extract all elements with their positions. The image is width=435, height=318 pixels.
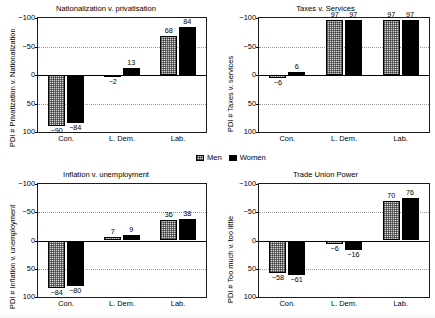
y-tick-label: 100 xyxy=(23,293,35,300)
bar-men[interactable] xyxy=(269,241,286,274)
y-tick-label: 0 xyxy=(31,71,35,78)
y-tick-mark xyxy=(256,297,259,298)
bar-value-label: −6 xyxy=(274,79,282,87)
y-tick-mark xyxy=(35,75,38,76)
bar-value-label: −90 xyxy=(51,127,63,135)
panel-title: Trade Union Power xyxy=(218,170,433,179)
bar-women[interactable] xyxy=(288,72,305,75)
panel-taxes-v-services: Taxes v. Services PDI # Taxes v. service… xyxy=(218,4,433,154)
bar-value-label: 97 xyxy=(406,11,414,19)
y-tick-label: 0 xyxy=(252,71,256,78)
y-tick-label: 50 xyxy=(27,265,35,272)
gridline xyxy=(38,212,206,213)
bar-value-label: 68 xyxy=(165,27,173,35)
bar-value-label: 84 xyxy=(183,18,191,26)
y-tick-mark xyxy=(35,104,38,105)
bar-women[interactable] xyxy=(67,241,84,286)
y-axis-label: PDI # Inflation v. unemployment xyxy=(9,205,17,309)
y-tick-label: −100 xyxy=(239,180,256,187)
legend-swatch-men-icon xyxy=(196,155,204,161)
bar-women[interactable] xyxy=(345,20,362,75)
bar-value-label: 9 xyxy=(129,226,133,234)
x-tick-label: Lab. xyxy=(171,135,185,143)
bar-women[interactable] xyxy=(288,241,305,275)
bar-value-label: 36 xyxy=(165,211,173,219)
bar-women[interactable] xyxy=(67,75,84,123)
y-tick-mark xyxy=(35,132,38,133)
panel-title: Taxes v. Services xyxy=(218,4,433,13)
bar-men[interactable] xyxy=(383,20,400,75)
panel-nationalization-v-privatisation: Nationalization v. privatisation PDI # P… xyxy=(0,4,212,154)
bar-value-label: 7 xyxy=(111,228,115,236)
bar-women[interactable] xyxy=(345,241,362,250)
y-tick-label: 0 xyxy=(252,237,256,244)
y-tick-mark xyxy=(256,132,259,133)
bar-men[interactable] xyxy=(160,36,177,75)
bar-value-label: −61 xyxy=(291,276,303,284)
bar-value-label: 97 xyxy=(331,11,339,19)
y-tick-label: −50 xyxy=(22,209,35,216)
bar-women[interactable] xyxy=(402,20,419,75)
legend-swatch-women-icon xyxy=(229,155,237,161)
x-tick-label: Lab. xyxy=(393,300,407,308)
y-tick-mark xyxy=(35,184,38,185)
y-tick-label: 0 xyxy=(31,237,35,244)
y-tick-mark xyxy=(35,18,38,19)
y-tick-mark xyxy=(256,212,259,213)
y-axis-label: PDI # Taxes v. services xyxy=(227,56,235,132)
y-tick-mark xyxy=(35,269,38,270)
bar-men[interactable] xyxy=(104,237,121,241)
bar-women[interactable] xyxy=(123,68,140,75)
legend-item-women[interactable]: Women xyxy=(229,153,266,162)
y-tick-label: −100 xyxy=(18,180,35,187)
y-axis-label: PDI # Too much v. too little xyxy=(227,216,235,303)
y-tick-mark xyxy=(256,18,259,19)
panel-inflation-v-unemployment: Inflation v. unemployment PDI # Inflatio… xyxy=(0,170,212,318)
y-tick-label: −50 xyxy=(22,43,35,50)
plot-area: 100500−50−100Con.−58−61L. Dem.−6−16Lab.7… xyxy=(258,183,430,298)
bar-women[interactable] xyxy=(179,219,196,240)
bar-value-label: −16 xyxy=(347,251,359,259)
y-tick-label: −100 xyxy=(239,14,256,21)
bar-value-label: −84 xyxy=(69,124,81,132)
bar-value-label: 6 xyxy=(295,63,299,71)
panel-trade-union-power: Trade Union Power PDI # Too much v. too … xyxy=(218,170,433,318)
y-tick-label: −100 xyxy=(18,14,35,21)
y-tick-mark xyxy=(35,212,38,213)
bar-men[interactable] xyxy=(48,241,65,288)
y-tick-label: 50 xyxy=(248,100,256,107)
x-tick-label: Con. xyxy=(58,300,74,308)
bar-value-label: −84 xyxy=(51,289,63,297)
y-tick-mark xyxy=(256,47,259,48)
bar-value-label: 97 xyxy=(349,11,357,19)
bar-value-label: −6 xyxy=(331,245,339,253)
x-tick-label: Con. xyxy=(280,135,296,143)
bar-women[interactable] xyxy=(179,27,196,75)
bar-men[interactable] xyxy=(48,75,65,126)
bar-men[interactable] xyxy=(160,220,177,240)
x-tick-label: L. Dem. xyxy=(109,135,135,143)
bar-men[interactable] xyxy=(326,20,343,75)
x-tick-label: L. Dem. xyxy=(331,135,357,143)
bar-women[interactable] xyxy=(123,235,140,240)
figure-multipanel-bar-charts: Nationalization v. privatisation PDI # P… xyxy=(0,0,435,318)
y-tick-mark xyxy=(256,269,259,270)
gridline xyxy=(259,104,429,105)
y-tick-label: 100 xyxy=(244,293,256,300)
y-tick-label: 100 xyxy=(244,128,256,135)
bar-women[interactable] xyxy=(402,198,419,241)
legend: Men Women xyxy=(196,153,266,162)
plot-area: 100500−50−100Con.−84−80L. Dem.79Lab.3638 xyxy=(37,183,207,298)
bar-value-label: 13 xyxy=(127,59,135,67)
bar-value-label: 38 xyxy=(183,210,191,218)
bar-value-label: 70 xyxy=(387,192,395,200)
y-tick-mark xyxy=(35,47,38,48)
bar-men[interactable] xyxy=(383,201,400,241)
x-tick-label: L. Dem. xyxy=(109,300,135,308)
legend-item-men[interactable]: Men xyxy=(196,153,222,162)
x-tick-label: Lab. xyxy=(171,300,185,308)
bar-value-label: 97 xyxy=(387,11,395,19)
panel-title: Nationalization v. privatisation xyxy=(0,4,212,13)
x-tick-label: Con. xyxy=(280,300,296,308)
y-tick-mark xyxy=(35,297,38,298)
